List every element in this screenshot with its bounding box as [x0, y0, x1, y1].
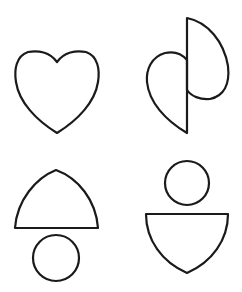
split-heart-right-half [187, 18, 228, 99]
shapes-diagram [0, 0, 242, 292]
shape-figure [0, 0, 242, 292]
heart-shape [15, 51, 98, 133]
circle-shape-bottom-right [165, 161, 209, 205]
split-heart-shape [147, 18, 228, 133]
dome-shape [15, 170, 98, 228]
circle-shape-bottom-left [33, 235, 79, 281]
split-heart-left-half [147, 52, 187, 133]
shield-shape [146, 214, 228, 273]
dome-over-circle [15, 170, 98, 281]
circle-over-shield [146, 161, 228, 273]
